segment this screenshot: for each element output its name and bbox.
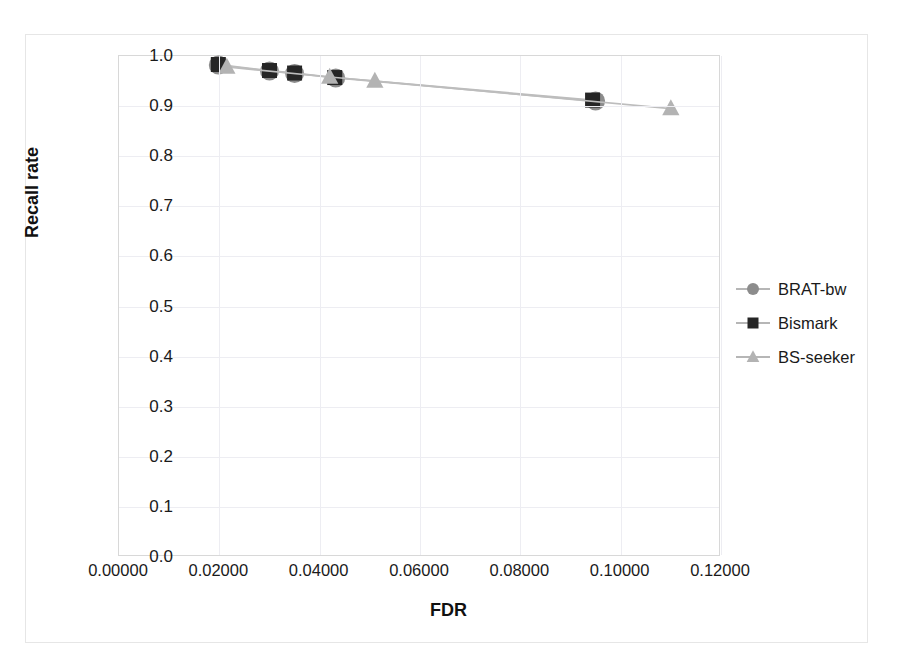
gridline-horizontal: [119, 457, 719, 458]
x-axis-title: FDR: [0, 600, 897, 621]
gridline-horizontal: [119, 407, 719, 408]
gridline-horizontal: [119, 507, 719, 508]
circle-legend-icon: [735, 280, 771, 298]
gridline-vertical: [621, 56, 622, 555]
y-axis-tick-label: 0.7: [113, 197, 173, 214]
y-axis-tick-label: 0.9: [113, 97, 173, 114]
square-marker: [748, 318, 759, 329]
x-axis-tick-label: 0.12000: [660, 562, 780, 579]
legend-item-bismark[interactable]: Bismark: [735, 306, 885, 340]
circle-marker: [747, 283, 759, 295]
chart-legend: BRAT-bwBismarkBS-seeker: [735, 272, 885, 374]
legend-item-label: BRAT-bw: [778, 280, 846, 299]
gridline-vertical: [219, 56, 220, 555]
legend-item-label: Bismark: [778, 314, 838, 333]
gridline-vertical: [420, 56, 421, 555]
plot-area: [118, 55, 720, 556]
legend-item-bs-seeker[interactable]: BS-seeker: [735, 340, 885, 374]
gridline-horizontal: [119, 256, 719, 257]
legend-item-label: BS-seeker: [778, 348, 855, 367]
series-line: [227, 67, 671, 109]
triangle-marker: [747, 350, 760, 362]
y-axis-tick-label: 0.6: [113, 247, 173, 264]
y-axis-tick-label: 0.3: [113, 398, 173, 415]
gridline-vertical: [520, 56, 521, 555]
triangle-legend-icon: [735, 348, 771, 366]
y-axis-tick-label: 0.5: [113, 298, 173, 315]
legend-item-brat-bw[interactable]: BRAT-bw: [735, 272, 885, 306]
gridline-horizontal: [119, 106, 719, 107]
gridline-horizontal: [119, 156, 719, 157]
series-group: [211, 57, 600, 108]
gridline-horizontal: [119, 357, 719, 358]
figure-root: 0.00.10.20.30.40.50.60.70.80.91.0 0.0000…: [0, 0, 897, 670]
y-axis-tick-label: 0.8: [113, 147, 173, 164]
y-axis-tick-label: 0.4: [113, 348, 173, 365]
y-axis-tick-label: 0.2: [113, 448, 173, 465]
gridline-horizontal: [119, 307, 719, 308]
gridline-horizontal: [119, 206, 719, 207]
gridline-vertical: [721, 56, 722, 555]
y-axis-tick-label: 0.1: [113, 498, 173, 515]
square-legend-icon: [735, 314, 771, 332]
gridline-vertical: [320, 56, 321, 555]
y-axis-tick-label: 1.0: [113, 47, 173, 64]
y-axis-title: Recall rate: [22, 147, 43, 238]
